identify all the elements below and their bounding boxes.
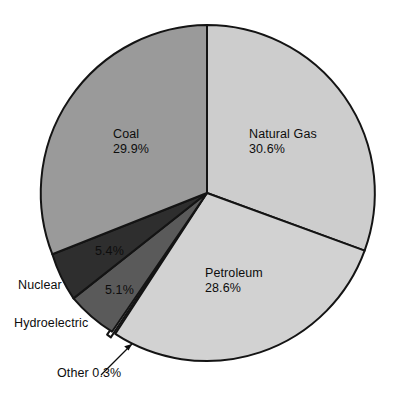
slice-label-petroleum-value: 28.6%	[205, 281, 263, 296]
slice-label-petroleum: Petroleum 28.6%	[205, 266, 263, 296]
slice-label-nuclear-value: 5.4%	[95, 244, 124, 259]
pie-chart: Coal 29.9% Natural Gas 30.6% Petroleum 2…	[0, 0, 393, 394]
slice-label-natural-gas: Natural Gas 30.6%	[249, 127, 317, 157]
slice-label-hydroelectric-value: 5.1%	[105, 283, 134, 298]
slice-label-coal: Coal 29.9%	[113, 127, 149, 157]
slice-label-other: Other 0.3%	[57, 366, 121, 381]
slice-label-coal-name: Coal	[113, 127, 149, 142]
slice-label-natural-gas-value: 30.6%	[249, 142, 317, 157]
slice-label-hydroelectric-name: Hydroelectric	[14, 316, 88, 331]
slice-label-nuclear-name: Nuclear	[18, 278, 62, 293]
slice-label-petroleum-name: Petroleum	[205, 266, 263, 281]
pie-chart-canvas	[0, 0, 393, 394]
slice-label-natural-gas-name: Natural Gas	[249, 127, 317, 142]
slice-label-coal-value: 29.9%	[113, 142, 149, 157]
